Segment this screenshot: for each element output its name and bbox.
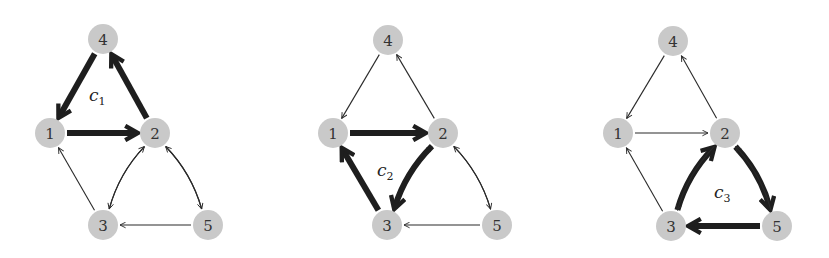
cycle-label-c1: c1 (89, 85, 106, 108)
edge-3-to-2 (109, 147, 144, 209)
node-4: 4 (88, 24, 118, 54)
node-label: 1 (45, 125, 55, 143)
cycle-edge-2-to-5 (736, 147, 770, 209)
cycle-label-c3: c3 (714, 182, 731, 205)
edge-3-to-1 (626, 148, 662, 211)
node-1: 1 (603, 118, 633, 148)
node-label: 4 (383, 32, 393, 50)
node-label: 5 (772, 218, 782, 236)
node-2: 2 (140, 118, 170, 148)
edge-4-to-1 (342, 55, 380, 119)
node-3: 3 (88, 210, 118, 240)
node-label: 3 (666, 218, 676, 236)
node-label: 1 (328, 125, 338, 143)
cycle-edge-2-to-3 (395, 146, 432, 207)
edge-2-to-5 (454, 146, 491, 209)
node-label: 2 (150, 125, 160, 143)
diagram-panel-2: 12345c2 (318, 25, 512, 240)
node-2: 2 (428, 118, 458, 148)
diagram-panel-3: 12345c3 (603, 26, 792, 241)
edge-3-to-1 (59, 148, 95, 211)
node-label: 5 (492, 217, 502, 235)
node-label: 4 (98, 31, 108, 49)
node-1: 1 (35, 118, 65, 148)
node-label: 3 (382, 217, 392, 235)
node-1: 1 (318, 118, 348, 148)
cycle-label-c2: c2 (377, 160, 394, 183)
node-5: 5 (762, 211, 792, 241)
edge-2-to-4 (681, 56, 716, 118)
edge-4-to-1 (627, 56, 665, 119)
edge-5-to-2 (166, 147, 202, 210)
edge-2-to-4 (397, 55, 435, 119)
node-5: 5 (193, 210, 223, 240)
node-4: 4 (373, 25, 403, 55)
cycle-edge-3-to-1 (343, 149, 379, 210)
node-3: 3 (372, 210, 402, 240)
edge-5-to-2 (454, 146, 491, 209)
edge-2-to-5 (166, 147, 202, 210)
node-label: 5 (203, 217, 213, 235)
node-4: 4 (658, 26, 688, 56)
edge-2-to-3 (109, 147, 144, 209)
node-label: 2 (720, 125, 730, 143)
node-5: 5 (482, 210, 512, 240)
diagram-panel-1: 12345c1 (35, 24, 223, 240)
node-label: 2 (438, 125, 448, 143)
node-label: 1 (613, 125, 623, 143)
node-2: 2 (710, 118, 740, 148)
cycle-diagram-figure: 12345c112345c212345c3 (0, 0, 829, 258)
node-3: 3 (656, 211, 686, 241)
node-label: 3 (98, 217, 108, 235)
cycle-edge-3-to-2 (677, 148, 713, 210)
cycle-edge-2-to-4 (112, 56, 147, 119)
node-label: 4 (668, 33, 678, 51)
